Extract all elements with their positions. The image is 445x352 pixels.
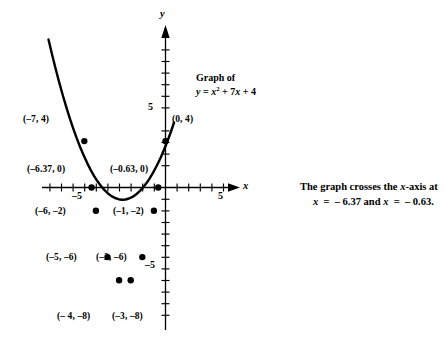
point-label-neg4-neg8: (– 4, –8) bbox=[57, 311, 90, 321]
y-tick-label-5: 5 bbox=[148, 101, 153, 112]
y-tick-label-minus5: –5 bbox=[145, 259, 155, 270]
point-label-neg6-neg2: (–6, –2) bbox=[35, 206, 66, 216]
caption-line-2: x = – 6.37 and x = – 0.63. bbox=[313, 196, 434, 207]
equation-body: y = x2 + 7x + 4 bbox=[196, 86, 256, 97]
point-label-0-4: (0, 4) bbox=[172, 114, 193, 124]
x-tick-label-5: 5 bbox=[218, 190, 223, 201]
point-0-4 bbox=[162, 138, 168, 144]
parabola-curve bbox=[49, 40, 175, 200]
point-neg0.63-0 bbox=[155, 184, 161, 190]
point-neg6-neg2 bbox=[93, 208, 99, 214]
point-neg3-neg8 bbox=[128, 277, 134, 283]
point-neg4-neg8 bbox=[116, 277, 122, 283]
x-tick-label-minus5: –5 bbox=[72, 190, 82, 201]
point-label-neg2-neg6: (–2, –6) bbox=[96, 252, 127, 262]
point-neg6.37-0 bbox=[88, 184, 94, 190]
figure-container: y x –5 5 5 –5 (–7, 4) (–6.37, 0) (–6, –2… bbox=[0, 0, 445, 352]
point-label-neg0.63-0: (–0.63, 0) bbox=[110, 164, 148, 174]
x-axis-arrow bbox=[228, 183, 240, 191]
point-neg7-4 bbox=[81, 138, 87, 144]
point-label-neg6.37-0: (–6.37, 0) bbox=[27, 164, 65, 174]
caption-line-1: The graph crosses the x-axis at bbox=[300, 181, 438, 192]
y-axis-label: y bbox=[160, 8, 165, 19]
equation-exponent: 2 bbox=[216, 85, 219, 92]
point-label-neg7-4: (–7, 4) bbox=[23, 114, 49, 124]
point-neg1-neg2 bbox=[151, 208, 157, 214]
equation-title: Graph of bbox=[196, 72, 235, 83]
point-label-neg3-neg8: (–3, –8) bbox=[112, 311, 143, 321]
x-axis-label: x bbox=[243, 180, 248, 191]
y-axis-arrow bbox=[161, 25, 169, 38]
point-label-neg5-neg6: (–5, –6) bbox=[46, 252, 77, 262]
point-label-neg1-neg2: (–1, –2) bbox=[113, 206, 144, 216]
coordinate-plot bbox=[0, 0, 445, 352]
